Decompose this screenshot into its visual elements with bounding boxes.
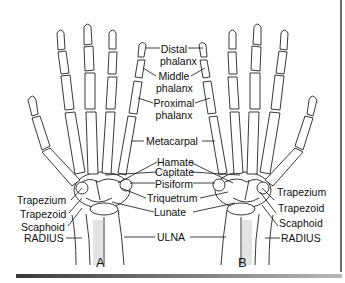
label-middle-line1: Middle (156, 70, 192, 82)
label-left-trapezoid: Trapezoid (20, 208, 66, 220)
label-lunate: Lunate (154, 206, 186, 218)
label-triquetrum: Triquetrum (147, 192, 197, 204)
label-middle-line2: phalanx (156, 82, 192, 94)
label-distal-line2: phalanx (160, 55, 188, 67)
label-left-trapezium: Trapezium (17, 194, 66, 206)
label-ulna: ULNA (157, 231, 185, 243)
label-proximal-line1: Proximal (152, 97, 196, 109)
label-right-trapezoid: Trapezoid (278, 202, 324, 214)
label-right-scaphoid: Scaphoid (279, 217, 323, 229)
label-left-radius: RADIUS (24, 232, 64, 244)
label-right-radius: RADIUS (281, 232, 321, 244)
label-distal-line1: Distal (160, 43, 188, 55)
panel-label-b: B (238, 255, 247, 270)
label-metacarpal: Metacarpal (146, 135, 198, 147)
label-right-trapezium: Trapezium (277, 186, 326, 198)
panel-label-a: A (96, 255, 105, 270)
label-proximal-phalanx: Proximal phalanx (152, 97, 196, 121)
label-middle-phalanx: Middle phalanx (156, 70, 192, 94)
label-proximal-line2: phalanx (152, 109, 196, 121)
label-pisiform: Pisiform (155, 178, 193, 190)
label-distal-phalanx: Distal phalanx (160, 43, 188, 67)
label-capitate: Capitate (155, 166, 194, 178)
